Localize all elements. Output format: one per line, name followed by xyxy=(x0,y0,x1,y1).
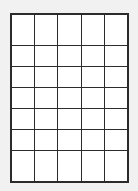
grid-cell[interactable] xyxy=(34,88,57,109)
table-row[interactable] xyxy=(11,130,128,151)
grid-cell[interactable] xyxy=(34,67,57,88)
grid-cell[interactable] xyxy=(105,46,128,67)
grid-cell[interactable] xyxy=(81,130,104,151)
grid-cell[interactable] xyxy=(11,14,34,46)
grid-container xyxy=(10,13,129,183)
grid-cell[interactable] xyxy=(11,67,34,88)
grid-cell[interactable] xyxy=(34,130,57,151)
grid-cell[interactable] xyxy=(34,151,57,183)
grid-cell[interactable] xyxy=(58,14,81,46)
grid-cell[interactable] xyxy=(81,151,104,183)
grid-cell[interactable] xyxy=(81,109,104,130)
grid-cell[interactable] xyxy=(81,14,104,46)
grid-cell[interactable] xyxy=(11,130,34,151)
table-row[interactable] xyxy=(11,14,128,46)
grid-cell[interactable] xyxy=(105,88,128,109)
grid-cell[interactable] xyxy=(58,130,81,151)
empty-grid-table[interactable] xyxy=(10,13,129,183)
grid-cell[interactable] xyxy=(34,109,57,130)
grid-cell[interactable] xyxy=(11,46,34,67)
grid-body xyxy=(11,14,128,182)
grid-cell[interactable] xyxy=(11,88,34,109)
grid-cell[interactable] xyxy=(58,46,81,67)
grid-cell[interactable] xyxy=(81,46,104,67)
grid-cell[interactable] xyxy=(58,151,81,183)
grid-cell[interactable] xyxy=(11,151,34,183)
grid-cell[interactable] xyxy=(105,14,128,46)
grid-cell[interactable] xyxy=(105,109,128,130)
grid-cell[interactable] xyxy=(81,67,104,88)
grid-cell[interactable] xyxy=(105,67,128,88)
grid-cell[interactable] xyxy=(81,88,104,109)
grid-cell[interactable] xyxy=(105,130,128,151)
grid-cell[interactable] xyxy=(58,88,81,109)
table-row[interactable] xyxy=(11,46,128,67)
grid-cell[interactable] xyxy=(58,109,81,130)
table-row[interactable] xyxy=(11,67,128,88)
table-row[interactable] xyxy=(11,151,128,183)
grid-cell[interactable] xyxy=(34,46,57,67)
grid-cell[interactable] xyxy=(58,67,81,88)
page-root xyxy=(0,0,138,191)
table-row[interactable] xyxy=(11,109,128,130)
grid-cell[interactable] xyxy=(11,109,34,130)
table-row[interactable] xyxy=(11,88,128,109)
grid-cell[interactable] xyxy=(105,151,128,183)
grid-cell[interactable] xyxy=(34,14,57,46)
